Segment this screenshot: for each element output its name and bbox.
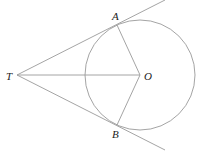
radius-ob xyxy=(117,75,140,125)
tangent-line-ta xyxy=(17,0,165,75)
tangent-line-tb xyxy=(17,75,165,150)
radius-oa xyxy=(117,25,140,75)
label-b: B xyxy=(112,128,119,140)
label-a: A xyxy=(111,10,119,22)
label-t: T xyxy=(6,70,13,82)
label-o: O xyxy=(144,70,152,82)
tangent-diagram: T A O B xyxy=(0,0,197,152)
